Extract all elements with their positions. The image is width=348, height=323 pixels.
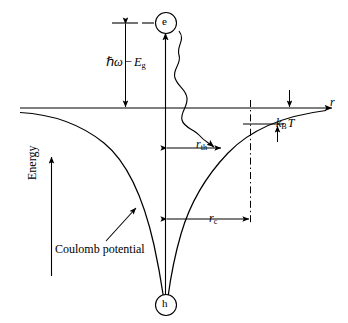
coulomb-potential-label: Coulomb potential — [55, 243, 145, 255]
hbar-symbol: ℏ — [106, 55, 114, 69]
thermal-energy-measure — [243, 90, 290, 142]
r-coulomb-subscript: c — [214, 217, 218, 226]
hole-label: h — [162, 298, 168, 309]
omega-symbol: ω — [114, 55, 123, 69]
energy-axis-label: Energy — [26, 146, 38, 180]
band-gap-symbol: E — [134, 55, 142, 69]
r-thermal-subscript: th — [201, 143, 207, 152]
minus-symbol: − — [123, 55, 134, 69]
coulomb-potential-curves — [20, 111, 326, 298]
r-thermal-label: rth — [196, 138, 207, 152]
coulomb-right-branch — [168, 111, 326, 298]
r-coulomb-label: rc — [209, 212, 217, 226]
coulomb-leader-arrow — [106, 208, 136, 241]
photon-energy-label: ℏω−Eg — [106, 56, 146, 70]
axis-group — [20, 33, 332, 297]
figure-canvas — [0, 0, 348, 323]
photon-wave-path — [174, 31, 214, 147]
coulomb-potential-leader — [106, 208, 136, 241]
radial-axis-label: r — [330, 96, 335, 108]
band-gap-subscript: g — [142, 60, 146, 70]
photon-wavy-arrow — [174, 31, 214, 147]
boltzmann-subscript: B — [281, 122, 286, 131]
thermal-energy-label: kBT — [276, 117, 294, 131]
coulomb-left-branch — [20, 113, 164, 298]
electron-label: e — [162, 16, 167, 27]
coulomb-potential-figure: Energy Coulomb potential ℏω−Eg rth rc kB… — [0, 0, 348, 323]
temperature-symbol: T — [287, 116, 295, 130]
